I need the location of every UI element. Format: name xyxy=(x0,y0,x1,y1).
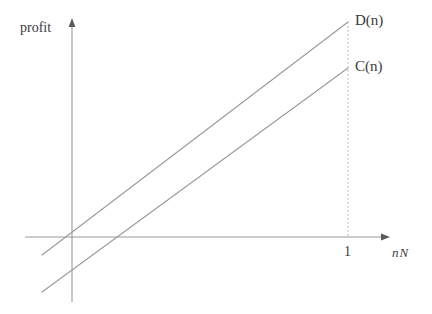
series-label-c-n: C(n) xyxy=(355,59,383,74)
x-axis-tick-label-one: 1 xyxy=(344,245,351,259)
x-axis xyxy=(25,234,390,241)
y-axis-arrowhead-icon xyxy=(69,18,76,27)
y-axis-label: profit xyxy=(20,21,51,35)
x-axis-label-n: n xyxy=(392,245,400,260)
x-axis-label-capital-n: N xyxy=(400,245,409,260)
series-line-c-n xyxy=(42,68,348,292)
series-label-d-n: D(n) xyxy=(355,13,383,28)
x-axis-label: nN xyxy=(392,246,408,259)
x-axis-arrowhead-icon xyxy=(381,234,390,241)
series-line-d-n xyxy=(42,22,348,255)
y-axis xyxy=(69,18,76,302)
chart-canvas xyxy=(0,0,432,314)
profit-cost-line-chart: profit D(n) C(n) 1 nN xyxy=(0,0,432,314)
